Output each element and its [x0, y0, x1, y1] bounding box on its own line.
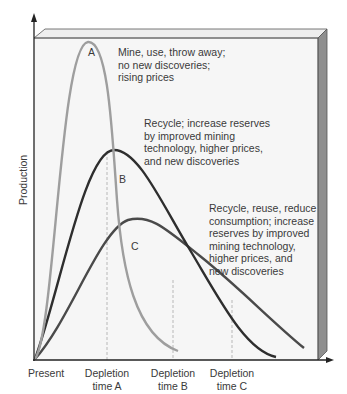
- curve-b-label: B: [119, 173, 126, 185]
- tick-depletion-b: Depletion time B: [146, 367, 200, 393]
- chart-panel-side: [318, 29, 327, 360]
- curve-c-label: C: [131, 240, 139, 252]
- annotation-b: Recycle; increase reserves by improved m…: [144, 117, 270, 167]
- tick-present: Present: [28, 367, 68, 380]
- curve-a-label: A: [88, 46, 95, 58]
- tick-depletion-a: Depletion time A: [80, 367, 134, 393]
- y-axis-label: Production: [17, 155, 29, 205]
- x-axis-arrow: [326, 357, 334, 363]
- annotation-c: Recycle, reuse, reduce consumption; incr…: [209, 202, 316, 277]
- tick-depletion-c: Depletion time C: [205, 367, 259, 393]
- annotation-a: Mine, use, throw away; no new discoverie…: [118, 46, 225, 84]
- chart-panel-top: [34, 29, 327, 38]
- y-axis-arrow: [31, 13, 37, 22]
- chart-panel-front: [34, 38, 318, 360]
